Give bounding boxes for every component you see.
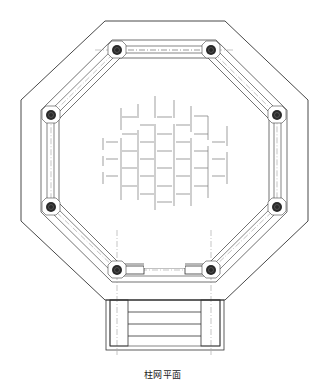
beam-inner-edge bbox=[59, 58, 269, 264]
column-grid-plan-drawing bbox=[0, 0, 325, 388]
column-7 bbox=[46, 202, 56, 212]
column-4 bbox=[272, 202, 282, 212]
column-3 bbox=[272, 110, 282, 120]
column-6 bbox=[112, 265, 122, 275]
drawing-caption: 柱网平面 bbox=[0, 368, 325, 381]
entrance-steps bbox=[106, 300, 224, 350]
column-5 bbox=[206, 265, 216, 275]
column-2 bbox=[206, 45, 216, 55]
axis-lines bbox=[51, 50, 277, 355]
paving-pattern bbox=[103, 96, 227, 210]
beam-outer-edge bbox=[41, 40, 287, 282]
beam-line-b bbox=[54, 53, 274, 268]
beam-line-a bbox=[47, 46, 281, 276]
step-cheek-right bbox=[201, 300, 220, 346]
column-1 bbox=[112, 45, 122, 55]
step-cheek-left bbox=[110, 300, 128, 346]
column-bases bbox=[42, 41, 286, 278]
column-8 bbox=[46, 110, 56, 120]
